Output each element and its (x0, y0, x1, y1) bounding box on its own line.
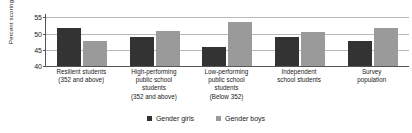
bar-boys (301, 32, 325, 66)
bar-boys (374, 28, 398, 66)
x-axis-label: Independentschool students (263, 68, 336, 84)
x-axis-label-line: population (335, 76, 408, 84)
bar-group (264, 14, 337, 66)
bar-girls (202, 47, 226, 66)
x-axis-category-labels: Resilient students(352 and above)High-pe… (45, 68, 408, 108)
legend-label: Gender girls (156, 115, 194, 122)
x-axis-label-line: Survey (335, 68, 408, 76)
x-axis-label: Resilient students(352 and above) (45, 68, 118, 84)
x-axis-label: Surveypopulation (335, 68, 408, 84)
bar-chart: Percent scoring high 55504540 Resilient … (0, 0, 412, 133)
bar-group (336, 14, 409, 66)
y-axis-tick-50: 50 (22, 30, 42, 37)
legend-swatch-icon (147, 116, 152, 121)
bar-girls (348, 41, 372, 66)
x-axis-label-line: public school (190, 76, 263, 84)
y-axis-tick-55: 55 (22, 14, 42, 21)
x-axis-label-line: public school (118, 76, 191, 84)
y-axis-tick-labels: 55504540 (22, 14, 42, 66)
x-axis-label-line: students (118, 84, 191, 92)
x-axis-label-line: Independent (263, 68, 336, 76)
bar-girls (130, 37, 154, 66)
bars-layer (46, 14, 409, 66)
legend-item[interactable]: Gender girls (147, 115, 194, 122)
bar-boys (228, 22, 252, 66)
bar-boys (156, 31, 180, 66)
legend-swatch-icon (216, 116, 221, 121)
y-axis-tick-40: 40 (22, 63, 42, 70)
bar-girls (275, 37, 299, 66)
bar-group (46, 14, 119, 66)
x-axis-label-line: students (190, 84, 263, 92)
bar-boys (83, 41, 107, 66)
bar-group (119, 14, 192, 66)
x-axis-label-line: High-performing (118, 68, 191, 76)
x-axis-label-line: Low-performing (190, 68, 263, 76)
bar-group (191, 14, 264, 66)
bar-girls (57, 28, 81, 66)
x-axis-label-line: (352 and above) (45, 76, 118, 84)
y-axis-tickmark (43, 66, 46, 67)
legend-label: Gender boys (225, 115, 265, 122)
plot-area (45, 14, 409, 67)
y-axis-title: Percent scoring high (8, 0, 14, 48)
x-axis-label: High-performingpublic schoolstudents(352… (118, 68, 191, 101)
y-axis-tick-45: 45 (22, 46, 42, 53)
x-axis-label: Low-performingpublic schoolstudents(Belo… (190, 68, 263, 101)
chart-legend: Gender girlsGender boys (0, 115, 412, 122)
x-axis-label-line: school students (263, 76, 336, 84)
x-axis-label-line: (Below 352) (190, 93, 263, 101)
legend-item[interactable]: Gender boys (216, 115, 265, 122)
x-axis-label-line: (352 and above) (118, 93, 191, 101)
x-axis-label-line: Resilient students (45, 68, 118, 76)
